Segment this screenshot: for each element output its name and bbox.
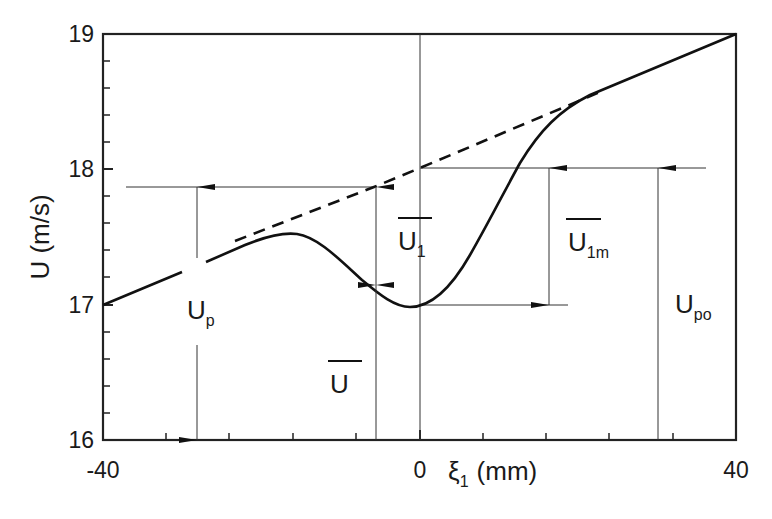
svg-text:U: U: [330, 369, 349, 399]
y-axis-title: U (m/s): [25, 194, 55, 279]
x-tick-40: 40: [723, 457, 749, 483]
x-axis-title-unit: (mm): [477, 456, 538, 486]
label-upo: Upo: [675, 289, 712, 323]
x-axis-title-subscript: 1: [460, 473, 469, 490]
chart: 19 18 17 16 -40 0 40 U (m/s) ξ1(mm) Up: [0, 0, 772, 519]
label-u1m: U1m: [566, 219, 609, 261]
svg-text:U1: U1: [398, 226, 426, 260]
svg-text:ξ1(mm): ξ1(mm): [448, 456, 537, 490]
x-axis-title-symbol: ξ: [448, 456, 460, 486]
label-u1: U1: [398, 218, 432, 260]
svg-text:U1m: U1m: [568, 227, 609, 261]
y-tick-17: 17: [68, 292, 94, 318]
y-tick-18: 18: [68, 156, 94, 182]
y-tick-19: 19: [68, 21, 94, 47]
label-ubar: U: [328, 361, 362, 399]
y-tick-16: 16: [68, 427, 94, 453]
x-tick-0: 0: [414, 457, 427, 483]
x-axis-title: ξ1(mm): [448, 456, 537, 490]
label-up: Up: [187, 295, 215, 329]
y-axis-ticks: [103, 61, 113, 413]
x-tick-minus-40: -40: [86, 457, 119, 483]
